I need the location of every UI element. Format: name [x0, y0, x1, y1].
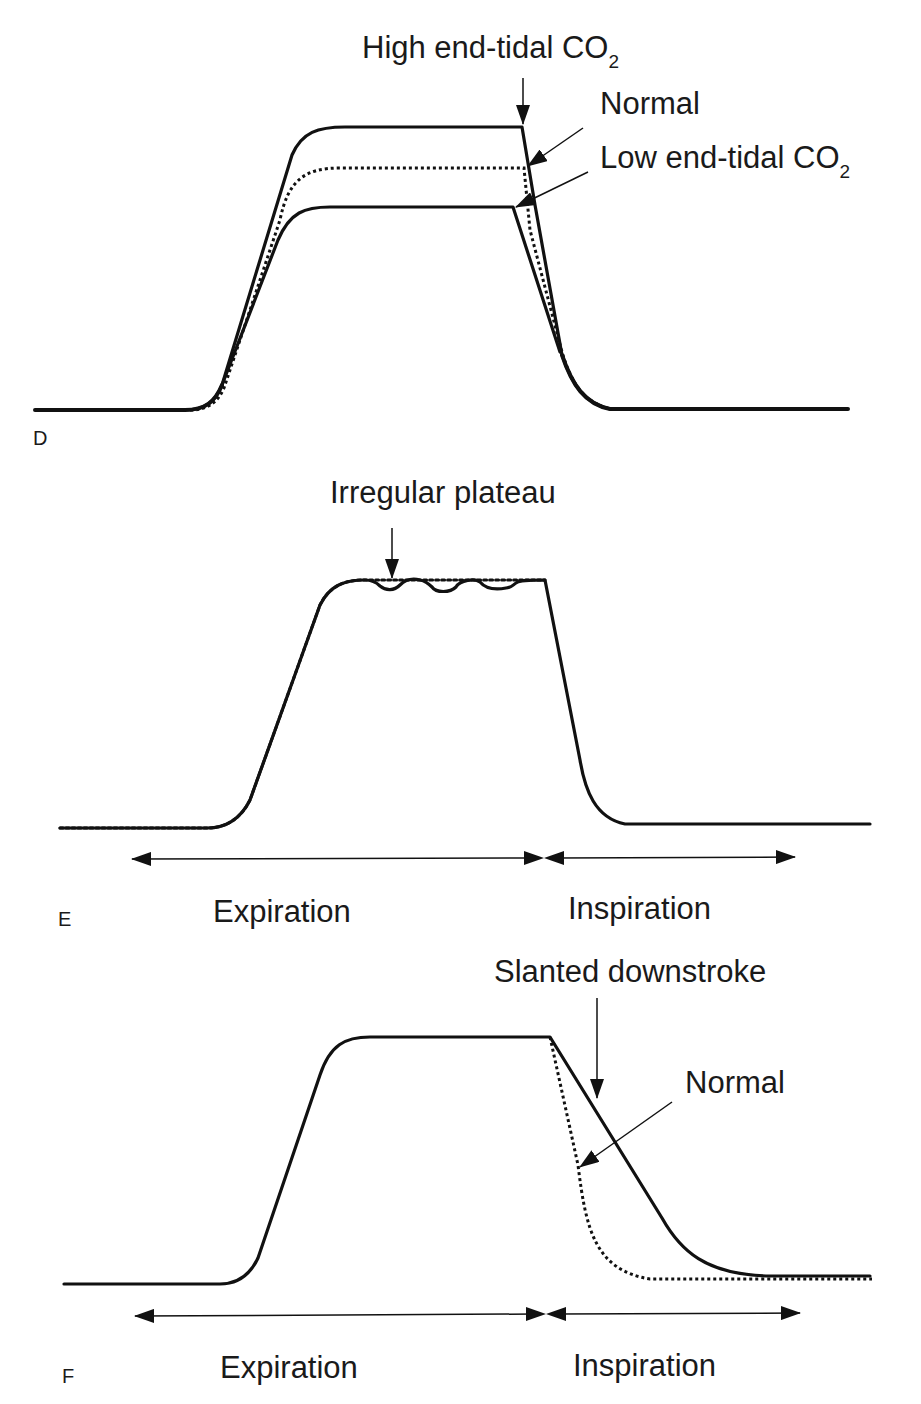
panel-e-irregular-curve: [60, 579, 870, 828]
arrow-expiration-f: [135, 1314, 534, 1316]
arrow-inspiration-f: [558, 1313, 800, 1314]
panel-e: Irregular plateau Expiration Inspiration…: [58, 475, 870, 930]
label-slanted-downstroke: Slanted downstroke: [494, 954, 766, 989]
arrow-junction-f: [526, 1307, 566, 1321]
label-normal-d: Normal: [600, 86, 700, 121]
arrow-low: [516, 172, 588, 207]
panel-f: Slanted downstroke Normal Expiration Ins…: [62, 954, 872, 1387]
panel-label-f: F: [62, 1365, 74, 1387]
panel-d: High end-tidal CO2 Normal Low end-tidal …: [33, 30, 850, 449]
panel-e-normal-curve: [60, 580, 545, 828]
arrow-expiration-e: [132, 858, 532, 859]
label-normal-f: Normal: [685, 1065, 785, 1100]
panel-label-d: D: [33, 427, 47, 449]
label-inspiration-f: Inspiration: [573, 1348, 716, 1383]
panel-d-low-curve: [222, 207, 560, 385]
label-inspiration-e: Inspiration: [568, 891, 711, 926]
arrow-inspiration-e: [556, 857, 795, 858]
label-irregular-plateau: Irregular plateau: [330, 475, 556, 510]
label-expiration-e: Expiration: [213, 894, 351, 929]
label-expiration-f: Expiration: [220, 1350, 358, 1385]
panel-d-baseline: [35, 355, 848, 410]
panel-label-e: E: [58, 908, 71, 930]
label-low-end-tidal: Low end-tidal CO2: [600, 140, 850, 182]
capnogram-figure: High end-tidal CO2 Normal Low end-tidal …: [0, 0, 921, 1404]
arrow-normal-d: [528, 128, 583, 166]
label-high-end-tidal: High end-tidal CO2: [362, 30, 619, 72]
arrow-junction-e: [524, 851, 564, 865]
